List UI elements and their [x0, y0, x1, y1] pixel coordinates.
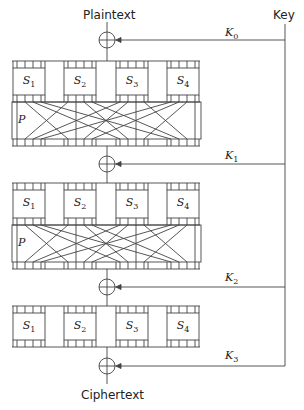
sbox-r2-s1-label: S1: [13, 196, 45, 211]
round1-arrow-icon: [116, 162, 121, 167]
key-label: Key: [273, 8, 295, 22]
sbox-r1-s3-label: S3: [116, 74, 148, 89]
sbox-r1-s1-label: S1: [13, 74, 45, 89]
sbox-r2-s3-label: S3: [116, 196, 148, 211]
spn-diagram: Plaintext Key Ciphertext K0 K1 K2 K3 S1 …: [0, 0, 304, 410]
round-key-0-label: K0: [225, 26, 238, 41]
diagram-lines: [0, 0, 304, 410]
sbox-r2-s2-label: S2: [64, 196, 96, 211]
round-key-3-label: K3: [225, 349, 238, 364]
round3-arrow-icon: [116, 364, 121, 369]
sbox-r2-s4-label: S4: [167, 196, 199, 211]
sbox-r3-s4-label: S4: [167, 319, 199, 334]
sbox-r3-s2-label: S2: [64, 319, 96, 334]
round-key-2-label: K2: [225, 271, 238, 286]
ciphertext-label: Ciphertext: [81, 388, 144, 402]
sbox-r3-s1-label: S1: [13, 319, 45, 334]
round0-arrow-icon: [116, 38, 121, 43]
plaintext-label: Plaintext: [83, 8, 136, 22]
perm-r1-label: P: [18, 113, 25, 126]
round-key-1-label: K1: [225, 149, 238, 164]
sbox-r3-s3-label: S3: [116, 319, 148, 334]
sbox-r1-s4-label: S4: [167, 74, 199, 89]
round2-arrow-icon: [116, 285, 121, 290]
perm-r2-label: P: [18, 236, 25, 249]
sbox-r1-s2-label: S2: [64, 74, 96, 89]
